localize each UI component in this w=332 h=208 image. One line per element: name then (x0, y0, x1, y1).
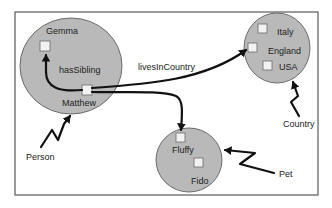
node-label-fido: Fido (191, 176, 209, 186)
ontology-diagram: Gemma hasSibling Matthew Italy England U… (0, 0, 332, 208)
class-label-country: Country (283, 119, 315, 129)
node-label-gemma: Gemma (46, 26, 78, 36)
node-label-fluffy: Fluffy (172, 145, 194, 155)
node-fido[interactable] (194, 158, 203, 167)
node-gemma[interactable] (40, 41, 50, 51)
node-matthew[interactable] (82, 85, 92, 95)
node-label-matthew: Matthew (62, 98, 97, 108)
class-label-pet: Pet (279, 169, 293, 179)
node-fluffy[interactable] (176, 133, 185, 142)
set-person: Gemma hasSibling Matthew (20, 18, 122, 114)
edge-label-has-sibling: hasSibling (59, 65, 101, 75)
node-label-usa: USA (279, 62, 298, 72)
set-pet-circle (156, 128, 222, 192)
node-england[interactable] (248, 43, 257, 52)
edge-label-lives-in-country: livesInCountry (138, 62, 196, 72)
node-usa[interactable] (263, 61, 272, 70)
class-label-person: Person (26, 152, 55, 162)
node-label-england: England (268, 46, 301, 56)
node-italy[interactable] (258, 24, 267, 33)
set-pet: Fluffy Fido (156, 128, 222, 192)
node-label-italy: Italy (277, 27, 294, 37)
set-country: Italy England USA (244, 13, 310, 83)
